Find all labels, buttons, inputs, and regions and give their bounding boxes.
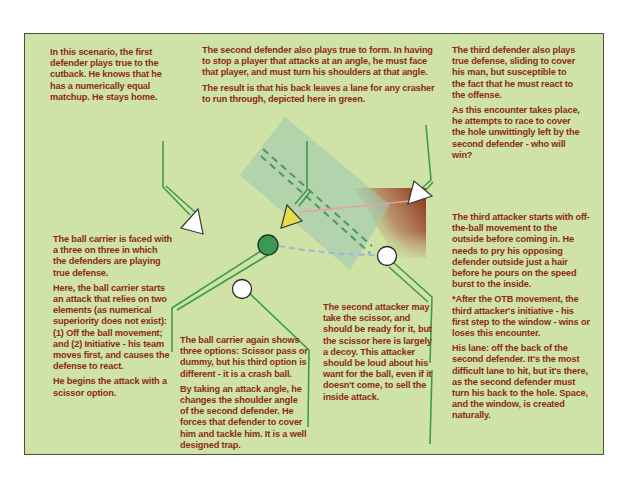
first-defender-note: In this scenario, the first defender pla… [50,47,175,107]
first-defender-note-p1: In this scenario, the first defender pla… [50,47,175,103]
third-attacker-note-p2: *After the OTB movement, the third attac… [452,294,590,339]
third-attacker-note-p1: The third attacker starts with off-the-b… [452,212,590,290]
first-defender-track [163,141,196,215]
second-attacker-note-p1: The second attacker may take the scissor… [323,302,435,403]
ball-carrier-note-p2: Here, the ball carrier starts an attack … [53,283,173,373]
first-defender-marker [181,209,203,234]
second-attacker-marker [233,280,252,299]
ball-carrier-note-p3: He begins the attack with a scissor opti… [53,376,173,398]
third-attacker-marker [378,247,397,266]
second-defender-note: The second defender also plays true to f… [202,45,440,109]
second-defender-note-p1: The second defender also plays true to f… [202,45,440,79]
third-defender-track [422,125,433,191]
third-defender-note-p1: The third defender also plays true defen… [452,45,582,101]
ball-carrier-marker [258,235,278,255]
ball-carrier-again-note: The ball carrier again shows three optio… [180,335,308,455]
third-attacker-note-p3: His lane: off the back of the second def… [452,343,590,421]
third-attacker-note: The third attacker starts with off-the-b… [452,212,590,426]
ball-carrier-note: The ball carrier is faced with a three o… [53,234,173,403]
ball-carrier-again-note-p1: The ball carrier again shows three optio… [180,335,308,380]
second-defender-note-p2: The result is that his back leaves a lan… [202,83,440,105]
third-defender-note-p2: As this encounter takes place, he attemp… [452,105,582,161]
third-defender-marker [408,181,432,204]
third-defender-note: The third defender also plays true defen… [452,45,582,165]
second-attacker-note: The second attacker may take the scissor… [323,302,435,407]
ball-carrier-again-note-p2: By taking an attack angle, he changes th… [180,384,308,451]
ball-carrier-note-p1: The ball carrier is faced with a three o… [53,234,173,279]
